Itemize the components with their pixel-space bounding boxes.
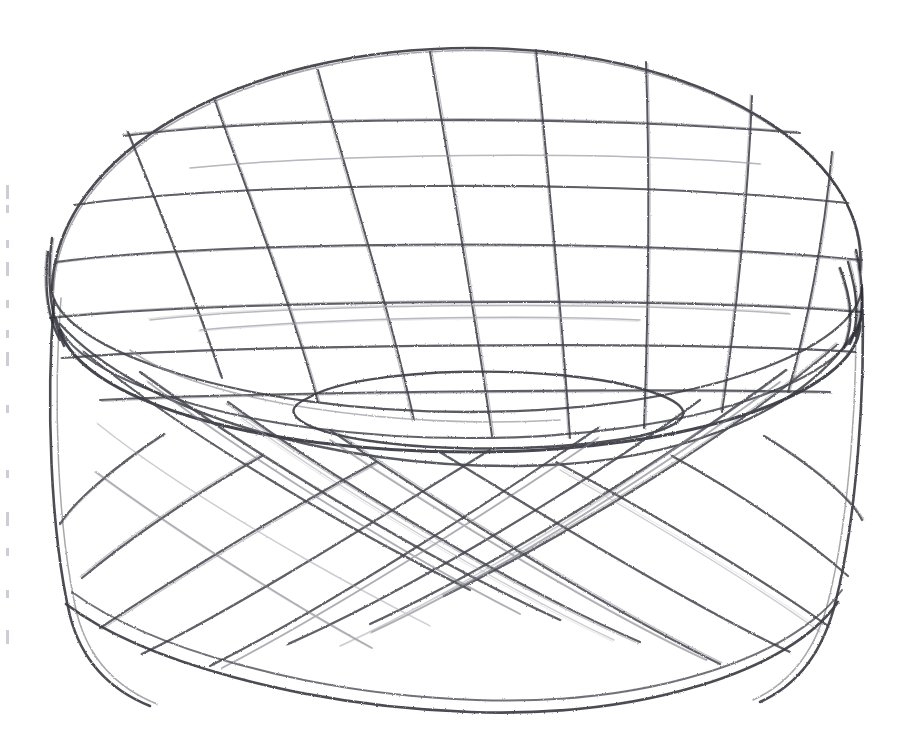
margin-tick-4: [6, 300, 9, 308]
margin-tick-12: [6, 630, 9, 644]
margin-tick-10: [6, 548, 9, 556]
margin-tick-6: [6, 352, 9, 366]
paper-background: [0, 0, 902, 752]
margin-tick-7: [6, 405, 9, 413]
margin-tick-2: [6, 240, 9, 248]
basket-sketch-svg: [0, 0, 902, 752]
margin-tick-11: [6, 590, 9, 598]
margin-tick-3: [6, 262, 9, 276]
margin-tick-9: [6, 512, 9, 526]
sketch-canvas: Round Lidded Basket round lidded woven b…: [0, 0, 902, 752]
margin-tick-0: [6, 185, 9, 199]
margin-tick-8: [6, 470, 9, 478]
margin-tick-5: [6, 330, 9, 338]
margin-tick-1: [6, 205, 9, 213]
